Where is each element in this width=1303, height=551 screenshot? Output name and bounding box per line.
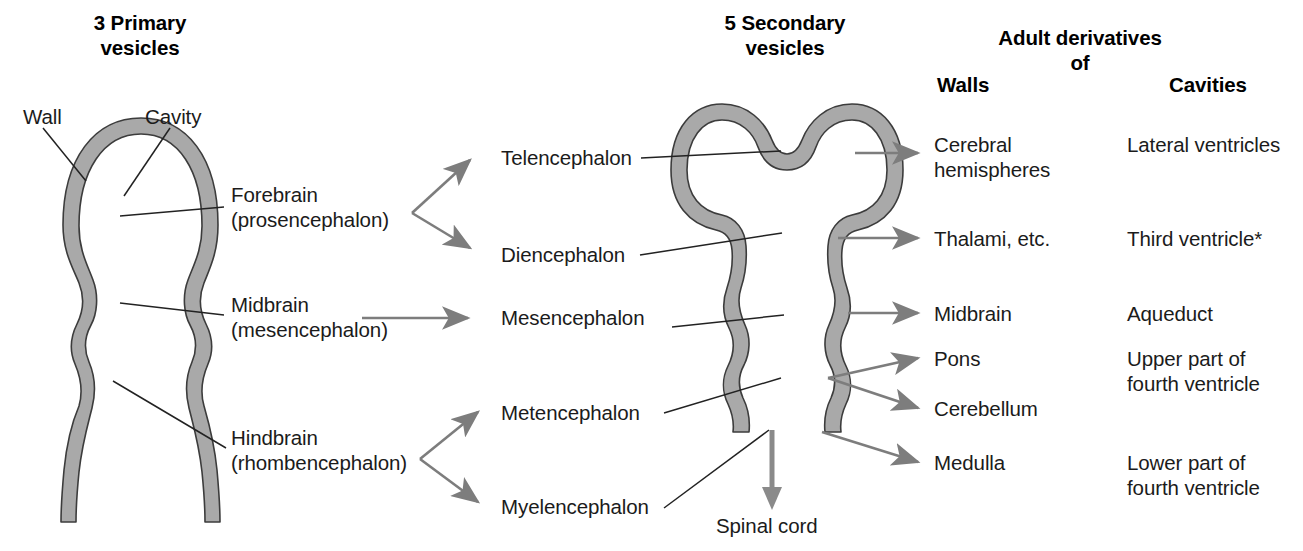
header-secondary-vesicles: 5 Secondary vesicles — [640, 10, 930, 60]
derivative-cavity-aqueduct: Aqueduct — [1127, 301, 1213, 326]
secondary-leader-lines — [640, 151, 784, 508]
derivative-wall-pons: Pons — [934, 346, 980, 371]
derivative-cavity-lower-fourth-ventricle: Lower part of fourth ventricle — [1127, 450, 1260, 500]
label-telencephalon: Telencephalon — [501, 145, 632, 170]
telencephalon-leader-line — [641, 151, 781, 158]
label-midbrain: Midbrain (mesencephalon) — [231, 292, 388, 342]
arrow-to-diencephalon — [412, 213, 470, 248]
label-myelencephalon: Myelencephalon — [501, 494, 649, 519]
derivative-cavity-lateral-ventricles: Lateral ventricles — [1127, 132, 1280, 157]
hindbrain-leader-line — [113, 381, 226, 448]
forebrain-fork-arrows — [412, 160, 470, 248]
derivative-wall-midbrain: Midbrain — [934, 301, 1012, 326]
midbrain-leader-line — [120, 303, 224, 315]
header-adult-derivatives: Adult derivatives of — [940, 25, 1220, 75]
label-wall: Wall — [23, 104, 62, 129]
label-spinal-cord: Spinal cord — [716, 513, 817, 538]
derivative-wall-thalami: Thalami, etc. — [934, 226, 1050, 251]
arrow-to-medulla — [822, 432, 918, 462]
label-diencephalon: Diencephalon — [501, 242, 625, 267]
label-forebrain: Forebrain (prosencephalon) — [231, 182, 389, 232]
header-cavities: Cavities — [1169, 72, 1247, 97]
cavity-leader-line — [124, 128, 170, 196]
derivative-cavity-upper-fourth-ventricle: Upper part of fourth ventricle — [1127, 346, 1260, 396]
arrow-to-metencephalon — [420, 412, 478, 459]
diagram-graphics-layer — [0, 0, 1303, 551]
brain-vesicle-development-diagram: 3 Primary vesicles 5 Secondary vesicles … — [0, 0, 1303, 551]
derivative-cavity-third-ventricle: Third ventricle* — [1127, 226, 1262, 251]
label-mesencephalon: Mesencephalon — [501, 305, 644, 330]
diencephalon-leader-line — [640, 233, 782, 255]
metencephalon-leader-line — [664, 378, 781, 413]
label-hindbrain: Hindbrain (rhombencephalon) — [231, 425, 407, 475]
arrow-to-myelencephalon — [420, 459, 478, 502]
derivative-wall-medulla: Medulla — [934, 450, 1005, 475]
label-cavity: Cavity — [145, 104, 201, 129]
arrow-to-telencephalon — [412, 160, 470, 213]
hindbrain-fork-arrows — [420, 412, 478, 502]
header-walls: Walls — [937, 72, 989, 97]
derivative-wall-cerebral-hemispheres: Cerebral hemispheres — [934, 132, 1050, 182]
label-metencephalon: Metencephalon — [501, 400, 640, 425]
derivative-wall-cerebellum: Cerebellum — [934, 396, 1038, 421]
myelencephalon-leader-line — [664, 430, 769, 508]
header-primary-vesicles: 3 Primary vesicles — [20, 10, 260, 60]
spinal-cord-arrow — [762, 430, 782, 510]
